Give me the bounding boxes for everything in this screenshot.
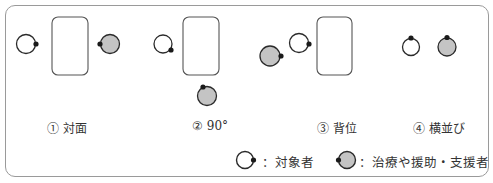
position-2-ninety-degrees — [154, 17, 219, 106]
facing-dot-icon — [278, 53, 283, 58]
position-1-facing — [17, 17, 120, 75]
supporter-icon — [198, 87, 217, 106]
position-1-label: ① 対面 — [47, 119, 87, 136]
table-icon — [183, 17, 219, 75]
position-2-label: ② 90° — [192, 119, 228, 133]
subject-icon — [17, 35, 36, 54]
legend-subject-text: ：対象者 — [262, 152, 314, 171]
position-3-behind — [260, 17, 352, 75]
legend-supporter-icon — [336, 152, 356, 169]
position-4-label: ④ 横並び — [413, 119, 465, 136]
facing-dot-icon — [200, 84, 205, 89]
legend-supporter-text: ：治療や援助・支援者 — [359, 152, 489, 171]
subject-icon — [403, 39, 420, 56]
position-3-label: ③ 背位 — [317, 119, 357, 136]
facing-dot-icon — [97, 41, 102, 46]
table-icon — [52, 17, 88, 75]
subject-icon — [290, 34, 309, 53]
supporter-icon — [438, 38, 456, 56]
position-4-side-by-side — [403, 35, 457, 56]
facing-dot-icon — [168, 47, 173, 52]
facing-dot-icon — [306, 41, 311, 46]
facing-dot-icon — [444, 35, 449, 40]
supporter-icon — [101, 35, 120, 54]
facing-dot-icon — [33, 41, 38, 46]
legend-subject-icon — [237, 152, 257, 169]
supporter-icon — [260, 46, 280, 66]
table-icon — [317, 17, 352, 75]
facing-dot-icon — [408, 35, 413, 40]
